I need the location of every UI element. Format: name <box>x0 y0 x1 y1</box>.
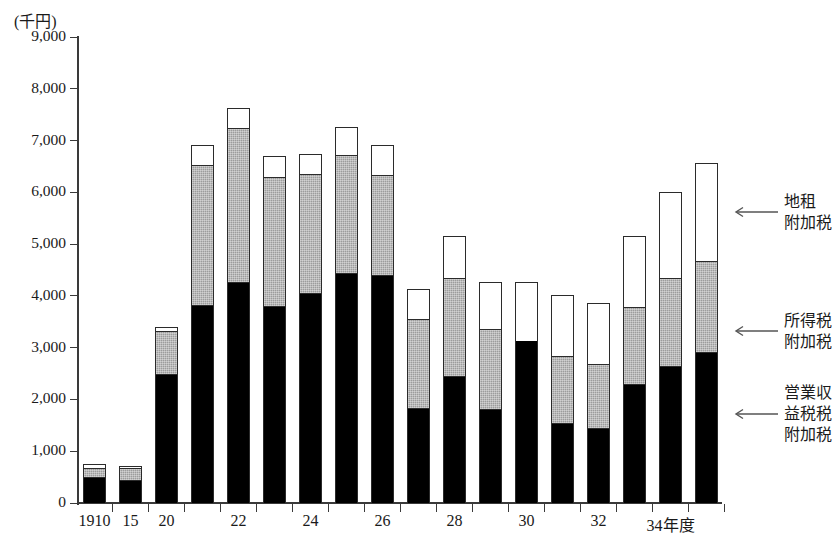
bar-segment-business-profit-tax-surtax <box>336 274 357 503</box>
bar-segment-land-tax-surtax <box>156 327 177 330</box>
bar-segment-business-profit-tax-surtax <box>696 353 717 503</box>
bar-segment-land-tax-surtax <box>192 145 213 165</box>
y-axis-tick <box>70 37 79 38</box>
bar-segment-income-tax-surtax <box>552 356 573 423</box>
bar-segment-income-tax-surtax <box>408 319 429 409</box>
x-axis-tick-label: 20 <box>127 512 207 530</box>
x-axis-tick <box>184 504 185 512</box>
x-axis-tick-label: 32 <box>559 512 639 530</box>
y-axis-tick-label: 7,000 <box>0 131 66 149</box>
left-arrow-icon <box>733 408 779 420</box>
callout-label-line: 営業収 <box>784 382 832 403</box>
x-axis-tick <box>112 504 113 512</box>
bar-26 <box>371 145 394 503</box>
x-axis-tick-label: 28 <box>415 512 495 530</box>
bar-segment-income-tax-surtax <box>228 128 249 283</box>
bar-segment-land-tax-surtax <box>696 163 717 260</box>
bar-25 <box>335 127 358 503</box>
x-axis-tick-label: 30 <box>487 512 567 530</box>
x-axis-tick-label: 22 <box>199 512 279 530</box>
y-axis-tick <box>70 192 79 193</box>
callout-business-profit-tax-surtax: 営業収益税税附加税 <box>733 382 832 445</box>
bar-segment-income-tax-surtax <box>264 177 285 307</box>
bar-segment-land-tax-surtax <box>516 282 537 341</box>
bar-segment-land-tax-surtax <box>408 289 429 320</box>
x-axis-tick <box>220 504 221 512</box>
bar-segment-land-tax-surtax <box>480 282 501 329</box>
bar-segment-income-tax-surtax <box>624 307 645 385</box>
bar-segment-income-tax-surtax <box>156 331 177 375</box>
bar-segment-land-tax-surtax <box>300 154 321 174</box>
bar-segment-business-profit-tax-surtax <box>516 341 537 503</box>
bar-segment-business-profit-tax-surtax <box>588 429 609 503</box>
x-axis-tick <box>580 504 581 512</box>
x-axis-tick <box>724 504 725 512</box>
bar-segment-land-tax-surtax <box>372 145 393 176</box>
bar-segment-land-tax-surtax <box>228 108 249 128</box>
bar-segment-income-tax-surtax <box>444 278 465 377</box>
bar-segment-income-tax-surtax <box>588 364 609 429</box>
y-axis-tick-label: 5,000 <box>0 234 66 252</box>
x-axis-tick-label: 24 <box>271 512 351 530</box>
bar-segment-land-tax-surtax <box>264 156 285 177</box>
x-axis-tick <box>616 504 617 512</box>
bar-segment-business-profit-tax-surtax <box>624 385 645 503</box>
bar-segment-business-profit-tax-surtax <box>300 294 321 503</box>
bar-22 <box>227 108 250 503</box>
bar-29 <box>479 282 502 503</box>
bar-segment-business-profit-tax-surtax <box>444 377 465 503</box>
bar-30 <box>515 282 538 503</box>
bar-segment-land-tax-surtax <box>120 466 141 468</box>
y-axis-tick <box>70 451 79 452</box>
bar-segment-land-tax-surtax <box>660 192 681 278</box>
bar-segment-business-profit-tax-surtax <box>120 481 141 503</box>
bar-segment-income-tax-surtax <box>696 261 717 353</box>
y-axis-tick-label: 0 <box>0 493 66 511</box>
x-axis-tick <box>688 504 689 512</box>
callout-land-tax-surtax: 地租附加税 <box>733 191 832 233</box>
bar-34 <box>659 192 682 503</box>
callout-label-line: 附加税 <box>784 331 832 352</box>
x-axis-tick <box>436 504 437 512</box>
x-axis-tick <box>508 504 509 512</box>
callout-label: 地租附加税 <box>784 191 832 233</box>
x-axis-tick-label: 34年度 <box>631 512 711 536</box>
bar-segment-business-profit-tax-surtax <box>192 306 213 503</box>
bar-27 <box>407 289 430 503</box>
y-axis-tick-label: 9,000 <box>0 27 66 45</box>
left-arrow-icon <box>733 325 779 337</box>
y-axis-tick <box>70 244 79 245</box>
callout-label-line: 附加税 <box>784 424 832 445</box>
bar-24 <box>299 154 322 504</box>
bar-segment-income-tax-surtax <box>372 175 393 276</box>
x-axis-tick <box>328 504 329 512</box>
callout-label-line: 附加税 <box>784 212 832 233</box>
bar-segment-income-tax-surtax <box>336 155 357 274</box>
callout-label: 営業収益税税附加税 <box>784 382 832 445</box>
bar-segment-land-tax-surtax <box>444 236 465 277</box>
y-axis-tick-label: 2,000 <box>0 389 66 407</box>
bar-segment-business-profit-tax-surtax <box>408 409 429 503</box>
bar-segment-business-profit-tax-surtax <box>372 276 393 503</box>
bar-segment-income-tax-surtax <box>84 468 105 478</box>
bar-segment-business-profit-tax-surtax <box>84 478 105 503</box>
bar-segment-income-tax-surtax <box>480 329 501 410</box>
bar-segment-income-tax-surtax <box>192 165 213 306</box>
y-axis-tick <box>70 347 79 348</box>
left-arrow-icon <box>733 206 779 218</box>
bar-segment-land-tax-surtax <box>552 295 573 356</box>
bar-segment-land-tax-surtax <box>336 127 357 155</box>
x-axis-tick <box>472 504 473 512</box>
bar-15 <box>119 466 142 503</box>
y-axis-tick-label: 3,000 <box>0 338 66 356</box>
bar-20 <box>155 327 178 503</box>
bar-segment-income-tax-surtax <box>300 174 321 295</box>
callout-label-line: 所得税 <box>784 310 832 331</box>
bar-segment-business-profit-tax-surtax <box>552 424 573 503</box>
y-axis-tick <box>70 295 79 296</box>
x-axis-tick <box>148 504 149 512</box>
bar-segment-land-tax-surtax <box>84 464 105 468</box>
y-axis-tick-label: 8,000 <box>0 79 66 97</box>
bar-segment-business-profit-tax-surtax <box>660 367 681 503</box>
bar-segment-income-tax-surtax <box>120 468 141 481</box>
